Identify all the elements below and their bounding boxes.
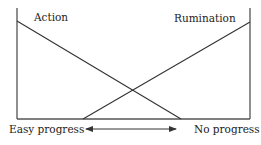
no-progress-label: No progress xyxy=(194,124,260,135)
rumination-label: Rumination xyxy=(174,13,236,24)
diagram: Action Rumination Easy progress No progr… xyxy=(0,0,261,145)
rumination-line xyxy=(83,22,250,119)
action-label: Action xyxy=(34,12,68,23)
easy-progress-label: Easy progress xyxy=(9,124,84,135)
action-line xyxy=(17,21,181,119)
